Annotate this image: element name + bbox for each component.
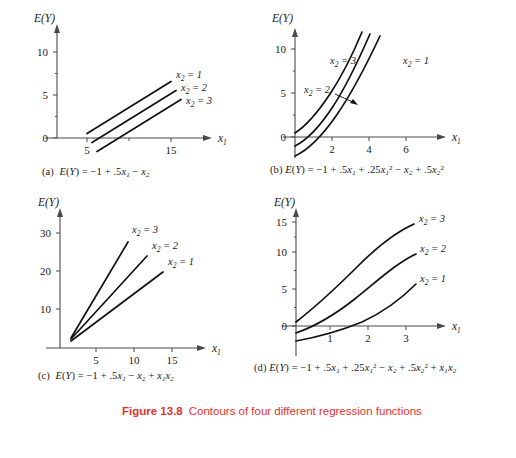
panel-b-curve-label-3: x2 = 3 <box>329 55 356 69</box>
figure-container: 0 5 10 5 15 E(Y) x1 x2 = 1 x2 = 2 x2 = 3… <box>0 0 516 458</box>
panel-b-curve-label-2: x2 = 2 <box>303 84 331 98</box>
panel-c-curve-x2-3 <box>71 242 128 338</box>
panel-a-curve-label-1: x2 = 1 <box>175 69 202 83</box>
panel-d-y-axis-label: E(Y) <box>273 196 295 209</box>
panel-b-x-arrow <box>437 134 446 140</box>
panel-a-y-axis-label: E(Y) <box>33 12 55 25</box>
panel-d-curve-label-2: x2 = 2 <box>419 243 447 257</box>
panel-a-ytick-label-10: 10 <box>37 46 49 58</box>
panel-c-x-arrow <box>197 345 206 351</box>
panel-a-equation: (a) E(Y) = −1 + .5x1 − x2 <box>42 166 150 179</box>
panel-a-xtick-label-5: 5 <box>84 144 90 156</box>
panel-d-ytick-label-15: 15 <box>276 216 288 228</box>
panel-c-y-axis-label: E(Y) <box>37 196 59 209</box>
panel-c-xtick-label-5: 5 <box>93 354 99 366</box>
panel-c-curve-label-1: x2 = 1 <box>167 256 194 270</box>
panel-d-equation: (d) E(Y) = −1 + .5x1 + .25x12 − x2 + .5x… <box>254 362 456 375</box>
panel-c-curve-x2-1 <box>71 272 163 341</box>
panel-d-y-arrow <box>293 208 299 217</box>
panel-b-curve-label-1: x2 = 1 <box>402 55 429 69</box>
panel-b-equation: (b) E(Y) = −1 + .5x1 + .25x12 − x2 + .5x… <box>270 164 444 177</box>
panel-a: 0 5 10 5 15 E(Y) x1 x2 = 1 x2 = 2 x2 = 3… <box>20 8 250 168</box>
panel-a-x-axis-label: x1 <box>217 132 227 147</box>
panel-b-y-axis-label: E(Y) <box>271 12 293 25</box>
panel-c-curve-x2-2 <box>71 256 147 339</box>
panel-c-ytick-label-30: 30 <box>40 227 52 239</box>
figure-caption: Figure 13.8Contours of four different re… <box>122 404 442 419</box>
panel-d-ytick-label-0: 0 <box>282 320 288 332</box>
panel-b-xtick-label-4: 4 <box>366 143 372 155</box>
panel-d-curve-x2-3 <box>296 224 414 322</box>
panel-c-ytick-label-20: 20 <box>40 265 52 277</box>
panel-a-curve-label-2: x2 = 2 <box>180 82 208 96</box>
panel-a-y-arrow <box>54 24 60 33</box>
panel-c-curve-label-3: x2 = 3 <box>131 224 158 238</box>
panel-b-ytick-label-10: 10 <box>275 43 287 55</box>
panel-d-curve-x2-2 <box>296 254 416 333</box>
panel-d-x-arrow <box>437 323 446 329</box>
panel-d-xtick-label-2: 2 <box>365 332 371 344</box>
panel-c-x-axis-label: x1 <box>211 342 221 357</box>
panel-a-x-arrow <box>203 135 212 141</box>
panel-a-xtick-label-15: 15 <box>166 144 178 156</box>
panel-c-y-arrow <box>57 208 63 217</box>
panel-d-plot: 0 5 10 15 1 2 3 E(Y) x1 x2 = 3 x2 = 2 x2… <box>258 196 508 366</box>
panel-b-xtick-label-2: 2 <box>329 143 335 155</box>
figure-caption-label: Figure 13.8 <box>122 405 183 417</box>
panel-c: 10 20 30 5 10 15 E(Y) x1 x2 = 3 x2 = 2 x… <box>20 196 250 366</box>
panel-b-plot: 0 5 10 2 4 6 E(Y) x1 x2 = 3 x2 = 1 x2 = … <box>258 8 508 168</box>
panel-b-label-2-arrowhead <box>350 99 358 105</box>
panel-c-xtick-label-10: 10 <box>129 354 141 366</box>
panel-a-plot: 0 5 10 5 15 E(Y) x1 x2 = 1 x2 = 2 x2 = 3 <box>20 8 250 168</box>
panel-d-curve-x2-1 <box>296 284 416 341</box>
panel-a-curve-label-3: x2 = 3 <box>185 95 212 109</box>
panel-c-curve-label-2: x2 = 2 <box>151 240 179 254</box>
panel-c-plot: 10 20 30 5 10 15 E(Y) x1 x2 = 3 x2 = 2 x… <box>20 196 250 366</box>
panel-a-curve-x2-2 <box>92 91 176 143</box>
panel-d-curve-label-1: x2 = 1 <box>419 273 446 287</box>
panel-d-ytick-label-10: 10 <box>276 246 288 258</box>
panel-b-ytick-label-0: 0 <box>281 131 287 143</box>
panel-d-curve-label-3: x2 = 3 <box>418 213 445 227</box>
panel-d-x-axis-label: x1 <box>451 320 461 335</box>
panel-a-ytick-label-5: 5 <box>43 89 49 101</box>
panel-b-curve-x2-3 <box>295 32 362 133</box>
panel-b-y-arrow <box>292 28 298 37</box>
panel-c-ytick-label-10: 10 <box>40 303 52 315</box>
panel-d: 0 5 10 15 1 2 3 E(Y) x1 x2 = 3 x2 = 2 x2… <box>258 196 508 366</box>
panel-b: 0 5 10 2 4 6 E(Y) x1 x2 = 3 x2 = 1 x2 = … <box>258 8 508 168</box>
panel-c-equation: (c) E(Y) = −1 + .5x1 − x2 + x1x2 <box>38 370 174 383</box>
panel-b-xtick-label-6: 6 <box>403 143 409 155</box>
panel-b-ytick-label-5: 5 <box>281 87 287 99</box>
figure-caption-text: Contours of four different regression fu… <box>189 405 422 417</box>
panel-a-curve-x2-1 <box>87 82 171 134</box>
panel-a-ytick-label-0: 0 <box>43 132 49 144</box>
panel-c-xtick-label-15: 15 <box>167 354 179 366</box>
panel-d-xtick-label-3: 3 <box>403 332 409 344</box>
panel-d-ytick-label-5: 5 <box>282 283 288 295</box>
panel-b-x-axis-label: x1 <box>451 131 461 146</box>
